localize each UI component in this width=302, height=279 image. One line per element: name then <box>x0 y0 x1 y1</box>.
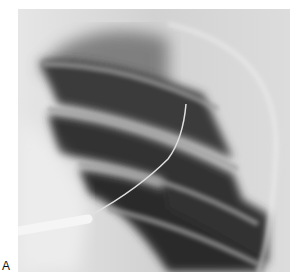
xray-image <box>18 9 290 272</box>
xray-graphic <box>18 9 290 272</box>
panel-label: A <box>2 259 10 273</box>
